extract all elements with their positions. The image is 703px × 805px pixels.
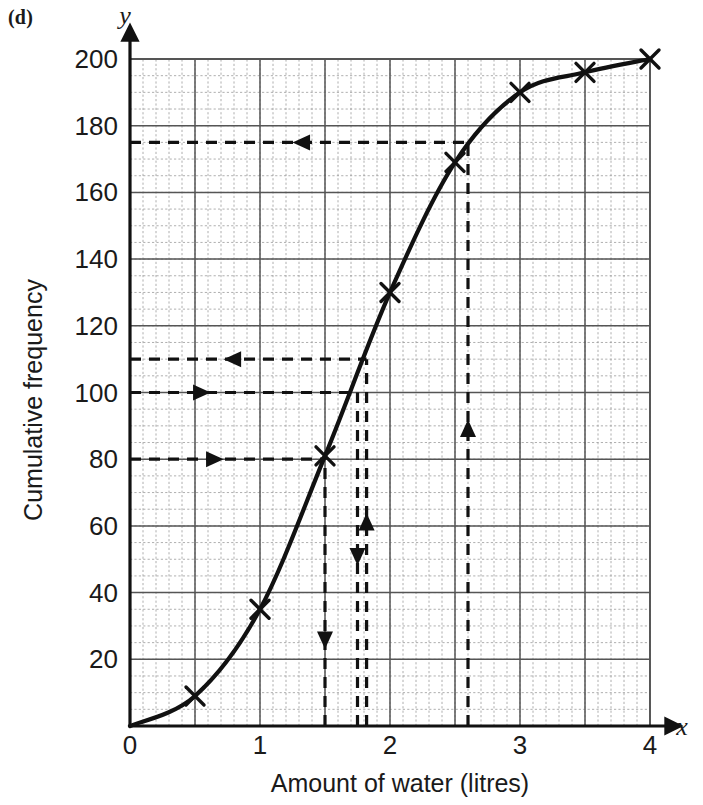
y-tick-label: 60 <box>89 511 118 541</box>
annotation-arrowhead <box>460 420 476 438</box>
x-tick-labels: 01234 <box>123 730 657 760</box>
y-tick-label: 180 <box>75 111 118 141</box>
x-tick-label: 2 <box>383 730 397 760</box>
y-tick-label: 80 <box>89 444 118 474</box>
cumulative-frequency-chart: 01234 20406080100120140160180200 x y Amo… <box>0 0 703 805</box>
y-tick-label: 40 <box>89 578 118 608</box>
figure-page: (d) 01234 20406080100120140160180200 x y… <box>0 0 703 805</box>
annotation-arrowhead <box>293 134 311 150</box>
x-axis-name: x <box>675 712 688 741</box>
x-tick-label: 4 <box>643 730 657 760</box>
data-point-markers <box>186 50 659 705</box>
x-tick-label: 0 <box>123 730 137 760</box>
y-tick-label: 120 <box>75 311 118 341</box>
annotation-arrowhead <box>224 351 242 367</box>
axes <box>130 34 672 726</box>
y-tick-label: 140 <box>75 244 118 274</box>
annotation-arrowhead <box>317 631 333 649</box>
annotation-arrowhead <box>359 513 375 531</box>
y-tick-label: 100 <box>75 378 118 408</box>
x-tick-label: 1 <box>253 730 267 760</box>
y-tick-labels: 20406080100120140160180200 <box>75 44 118 674</box>
x-axis-title: Amount of water (litres) <box>271 769 529 797</box>
y-tick-label: 200 <box>75 44 118 74</box>
x-tick-label: 3 <box>513 730 527 760</box>
y-axis-title: Cumulative frequency <box>19 279 47 521</box>
annotation-arrowhead <box>350 548 366 566</box>
y-tick-label: 160 <box>75 177 118 207</box>
y-axis-name: y <box>116 1 131 30</box>
y-tick-label: 20 <box>89 644 118 674</box>
